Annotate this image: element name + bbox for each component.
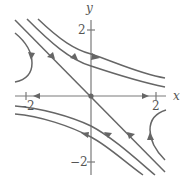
x-tick-label-2: 2 xyxy=(152,99,160,113)
equilibrium-point xyxy=(88,93,93,98)
trajectory-right-hyperbola xyxy=(150,110,166,160)
arrow-left-icon xyxy=(81,132,89,138)
phase-portrait: x y −2 2 2 −2 xyxy=(0,0,185,180)
y-tick-label-neg2: −2 xyxy=(70,155,88,169)
arrow-right-icon xyxy=(142,93,149,99)
x-axis-label: x xyxy=(173,89,180,103)
trajectory-left-hyperbola xyxy=(15,33,32,82)
arrow-down-icon xyxy=(28,52,35,60)
y-tick-label-2: 2 xyxy=(78,23,86,37)
y-axis-label: y xyxy=(85,1,93,15)
arrow-up-icon xyxy=(147,132,154,140)
